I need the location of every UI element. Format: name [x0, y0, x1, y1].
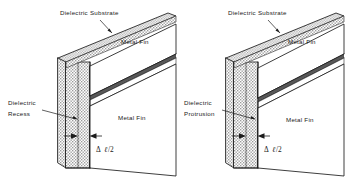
right-label-feature-line2: Protrusion [184, 110, 215, 117]
right-label-metal-fin-bottom: Metal Fin [286, 116, 314, 123]
right-dimension-label: Δ ℓ /2 [264, 145, 282, 154]
left-label-dielectric-substrate: Dielectric Substrate [60, 9, 119, 16]
left-label-feature-line1: Dielectric [8, 99, 36, 106]
finline-diagram: Dielectric Substrate Metal Fin Metal Fin… [0, 0, 354, 180]
figure-root: Dielectric Substrate Metal Fin Metal Fin… [0, 0, 354, 180]
left-label-feature-line2: Recess [8, 110, 30, 117]
left-dim-divisor: /2 [108, 145, 114, 154]
right-label-dielectric-substrate: Dielectric Substrate [228, 9, 287, 16]
right-label-feature-line1: Dielectric [184, 99, 212, 106]
right-panel-geometry [222, 13, 344, 176]
right-label-metal-fin-top: Metal Fin [288, 38, 316, 45]
left-label-metal-fin-top: Metal Fin [121, 38, 149, 45]
right-dim-divisor: /2 [276, 145, 282, 154]
left-label-metal-fin-bottom: Metal Fin [118, 114, 146, 121]
left-dimension-label: Δ ℓ /2 [96, 145, 114, 154]
left-substrate-end-cap [58, 58, 66, 168]
left-dim-delta-symbol: Δ [96, 145, 101, 154]
right-dim-delta-symbol: Δ [264, 145, 269, 154]
